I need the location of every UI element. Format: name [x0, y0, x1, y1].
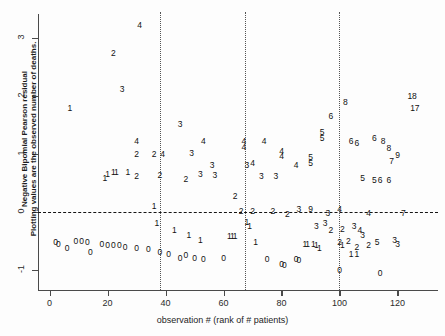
x-tick-label: 80 — [268, 298, 294, 308]
data-point: 3 — [395, 239, 400, 249]
data-point: 6 — [378, 175, 383, 185]
data-point: 1 — [186, 230, 191, 240]
data-point: 9 — [395, 150, 400, 160]
data-point: 0 — [282, 260, 287, 270]
data-point: 0 — [378, 268, 383, 278]
data-point: 4 — [137, 20, 142, 30]
y-tick-label: -1 — [16, 262, 26, 276]
data-point: 1 — [305, 239, 310, 249]
data-point: 0 — [53, 237, 58, 247]
data-point: 6 — [386, 175, 391, 185]
data-point: 0 — [134, 243, 139, 253]
data-point: 1 — [317, 243, 322, 253]
data-point: 3 — [314, 221, 319, 231]
data-point: 1 — [340, 240, 345, 250]
data-point: 0 — [166, 249, 171, 259]
data-point: 4 — [134, 136, 139, 146]
data-point: 8 — [381, 136, 386, 146]
data-point: 3 — [178, 119, 183, 129]
x-tick — [281, 290, 282, 296]
plot-area: 1234421111122421343333224434444433552222… — [38, 12, 438, 290]
data-point: 6 — [328, 111, 333, 121]
data-point: 3 — [273, 171, 278, 181]
data-point: 2 — [239, 206, 244, 216]
data-point: 0 — [146, 244, 151, 254]
data-point: 4 — [294, 160, 299, 170]
data-point: 3 — [352, 221, 357, 231]
data-point: 5 — [320, 133, 325, 143]
x-tick — [166, 290, 167, 296]
data-point: 1 — [172, 225, 177, 235]
data-point: 4 — [262, 136, 267, 146]
data-point: 0 — [111, 240, 116, 250]
x-tick-label: 0 — [37, 298, 63, 308]
data-point: 5 — [360, 173, 365, 183]
data-point: 3 — [323, 218, 328, 228]
data-point: 0 — [123, 242, 128, 252]
data-point: 2 — [157, 170, 162, 180]
data-point: 4 — [160, 149, 165, 159]
data-point: 8 — [386, 143, 391, 153]
x-axis-line — [38, 290, 438, 291]
data-point: 9 — [308, 204, 313, 214]
data-point: 1 — [247, 221, 252, 231]
data-point: 1 — [114, 167, 119, 177]
data-point: 5 — [308, 158, 313, 168]
data-point: 1 — [198, 235, 203, 245]
data-point: 0 — [157, 247, 162, 257]
data-point: 0 — [105, 240, 110, 250]
data-point: 1 — [152, 201, 157, 211]
data-point: 7 — [389, 156, 394, 166]
y-axis-label-line1: Negative Bipomial Pearson residual — [20, 24, 29, 254]
data-point: 2 — [285, 209, 290, 219]
data-point: 18 — [407, 91, 416, 101]
x-tick-label: 120 — [384, 298, 410, 308]
data-point: 2 — [366, 240, 371, 250]
data-point: 3 — [210, 160, 215, 170]
data-point: 2 — [184, 174, 189, 184]
x-tick-label: 20 — [95, 298, 121, 308]
data-point: 2 — [233, 191, 238, 201]
data-point: 8 — [343, 97, 348, 107]
y-axis-label: Negative Bipomial Pearson residual Plott… — [20, 24, 38, 254]
data-point: 3 — [198, 169, 203, 179]
x-tick-label: 100 — [326, 298, 352, 308]
x-tick-label: 60 — [211, 298, 237, 308]
data-point: 0 — [73, 236, 78, 246]
data-point: 1 — [126, 167, 131, 177]
data-point: 0 — [184, 250, 189, 260]
data-point: 3 — [326, 208, 331, 218]
data-point: 0 — [79, 236, 84, 246]
data-point: 4 — [337, 204, 342, 214]
data-point: 0 — [178, 253, 183, 263]
data-point: 2 — [134, 149, 139, 159]
x-tick — [224, 290, 225, 296]
data-point: 1 — [233, 231, 238, 241]
data-point: 2 — [340, 224, 345, 234]
data-point: 1 — [102, 173, 107, 183]
x-tick — [397, 290, 398, 296]
data-point: 3 — [189, 148, 194, 158]
data-point: 2 — [134, 171, 139, 181]
data-point: 1 — [68, 103, 73, 113]
data-point: 3 — [297, 204, 302, 214]
data-point: 4 — [279, 151, 284, 161]
data-point: 0 — [201, 254, 206, 264]
data-point: 4 — [201, 136, 206, 146]
data-point: 0 — [88, 247, 93, 257]
data-point: 3 — [244, 160, 249, 170]
data-point: 2 — [328, 225, 333, 235]
data-point: 6 — [372, 133, 377, 143]
scatter-plot-figure: -10123 020406080100120 12344211111224213… — [0, 0, 445, 336]
data-point: 1 — [355, 249, 360, 259]
data-point: 5 — [372, 175, 377, 185]
data-point: 17 — [410, 103, 419, 113]
data-point: 2 — [111, 48, 116, 58]
data-point: 0 — [221, 253, 226, 263]
data-point: 4 — [366, 208, 371, 218]
x-tick — [339, 290, 340, 296]
y-axis-label-line2: Plotting values are the observed number … — [29, 24, 38, 254]
data-point: 7 — [401, 208, 406, 218]
x-tick — [108, 290, 109, 296]
data-point: 1 — [253, 237, 258, 247]
